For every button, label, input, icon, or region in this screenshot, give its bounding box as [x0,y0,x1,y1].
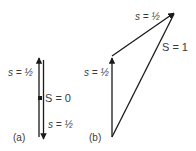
panel-a-caption: (a) [13,132,25,143]
spin-vector-diagram: s = ½ S = 0 s = ½ (a) s = ½ s = ½ S = 1 … [0,0,196,151]
panel-b-second-label: s = ½ [135,11,160,22]
panel-b-first-label: s = ½ [84,67,109,78]
panel-b: s = ½ s = ½ S = 1 (b) [84,11,188,143]
panel-a-up-label: s = ½ [8,67,33,78]
origin-dot [38,96,42,100]
panel-b-caption: (b) [89,132,101,143]
panel-a-down-label: s = ½ [48,119,73,130]
panel-a-total-label: S = 0 [45,92,71,104]
panel-b-total-label: S = 1 [162,41,188,53]
resultant-spin-line [112,14,174,137]
panel-a: s = ½ S = 0 s = ½ (a) [8,58,73,143]
